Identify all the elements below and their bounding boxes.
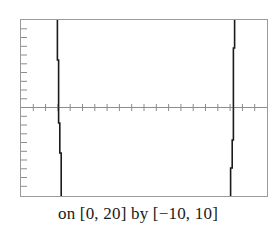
curve-branch-left-lower bbox=[59, 108, 62, 197]
figure-caption: on [0, 20] by [−10, 10] bbox=[0, 203, 276, 225]
curve-branch-left-upper bbox=[57, 20, 58, 108]
graph-figure: on [0, 20] by [−10, 10] bbox=[0, 0, 276, 239]
curve-branch-right-upper bbox=[233, 20, 234, 108]
curve-branch-right-lower bbox=[231, 108, 234, 197]
calculator-plot-frame bbox=[20, 19, 268, 197]
plot-canvas bbox=[21, 20, 267, 196]
